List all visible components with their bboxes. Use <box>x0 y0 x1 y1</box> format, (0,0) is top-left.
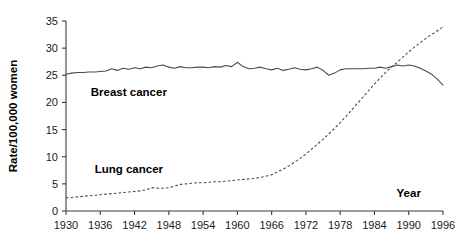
x-axis-title: Year <box>397 187 422 199</box>
x-tick-label: 1954 <box>191 219 215 231</box>
chart-figure: 05101520253035 1930193619421948195419601… <box>0 0 464 246</box>
y-tick-label: 25 <box>46 69 58 81</box>
y-tick-label: 0 <box>52 205 58 217</box>
axes-group <box>66 21 443 211</box>
x-tick-label: 1942 <box>122 219 146 231</box>
y-tick-label: 35 <box>46 15 58 27</box>
chart-canvas: 05101520253035 1930193619421948195419601… <box>0 0 464 246</box>
y-tick-label: 15 <box>46 124 58 136</box>
y-tick-label: 20 <box>46 96 58 108</box>
series-annotation: Lung cancer <box>95 163 164 175</box>
series-line-breast-cancer <box>66 62 443 85</box>
y-axis-ticks: 05101520253035 <box>46 15 66 217</box>
x-tick-label: 1978 <box>328 219 352 231</box>
x-tick-label: 1948 <box>157 219 181 231</box>
y-tick-label: 10 <box>46 151 58 163</box>
x-tick-label: 1966 <box>259 219 283 231</box>
x-tick-label: 1936 <box>88 219 112 231</box>
x-tick-label: 1930 <box>54 219 78 231</box>
x-tick-label: 1996 <box>431 219 455 231</box>
y-axis-title: Rate/100,000 women <box>7 60 19 173</box>
chart-annotations: Breast cancerLung cancerYear <box>91 86 422 199</box>
x-tick-label: 1990 <box>396 219 420 231</box>
x-axis-ticks: 1930193619421948195419601966197219781984… <box>54 211 455 231</box>
x-tick-label: 1972 <box>294 219 318 231</box>
x-tick-label: 1984 <box>362 219 386 231</box>
x-tick-label: 1960 <box>225 219 249 231</box>
y-tick-label: 30 <box>46 42 58 54</box>
y-tick-label: 5 <box>52 178 58 190</box>
series-annotation: Breast cancer <box>91 86 168 98</box>
